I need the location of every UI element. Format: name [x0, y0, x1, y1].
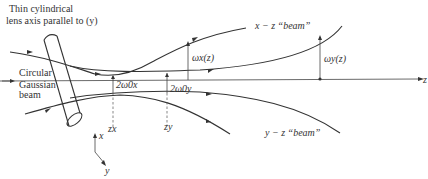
z-axis-label: z	[422, 74, 427, 85]
x-axis-label: x	[98, 130, 104, 141]
ray-arrow-icon	[27, 50, 33, 54]
yz-beam-upper-envelope	[70, 26, 342, 71]
zx-label: zx	[107, 123, 117, 134]
y-axis-label: y	[104, 165, 110, 176]
xz-beam-label: x − z “beam”	[254, 20, 311, 31]
gaussian-beam-diagram: z 2ω0x 2ω0y zx zy ωx(z) ωy(z) Thin cylin…	[0, 0, 428, 179]
ray-arrow-icon	[208, 69, 214, 73]
optical-axis	[0, 79, 418, 81]
input-label-line1: Circular	[19, 67, 52, 78]
input-arrowhead-icon	[10, 79, 15, 83]
zy-label: zy	[163, 121, 173, 132]
ray-arrow-icon	[95, 72, 101, 76]
waist-x-label: 2ω0x	[116, 79, 138, 90]
waist-y-label: 2ω0y	[170, 83, 192, 94]
yz-beam-label: y − z “beam”	[264, 127, 321, 138]
omega-x-label: ωx(z)	[192, 52, 215, 64]
input-label-line3: beam	[19, 89, 41, 100]
lens-label-line2: lens axis parallel to (y)	[6, 15, 98, 27]
xz-beam-lower-ray	[25, 95, 230, 134]
lens-label-line1: Thin cylindrical	[9, 3, 73, 14]
omega-y-label: ωy(z)	[324, 53, 347, 65]
